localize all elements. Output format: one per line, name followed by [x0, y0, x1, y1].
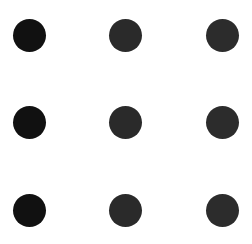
- dot-r0-c1: [109, 19, 142, 52]
- dot-r0-c2: [206, 19, 239, 52]
- dot-r2-c1: [109, 194, 142, 227]
- dot-r1-c2: [206, 106, 239, 139]
- dot-r1-c1: [109, 106, 142, 139]
- dot-grid-canvas: [0, 0, 252, 244]
- dot-r2-c2: [206, 194, 239, 227]
- dot-r0-c0: [13, 19, 46, 52]
- dot-r1-c0: [13, 106, 46, 139]
- dot-r2-c0: [13, 194, 46, 227]
